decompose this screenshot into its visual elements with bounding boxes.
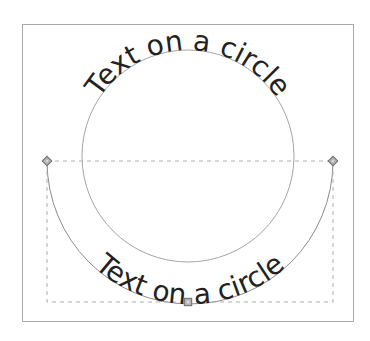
square-handle-bottom[interactable] [184,298,191,305]
square-handle-bottom-center [187,301,190,304]
canvas-svg: Text on a circle Text on a circle [0,0,370,341]
page-border [23,25,354,322]
drawing-canvas: Text on a circle Text on a circle [0,0,370,341]
